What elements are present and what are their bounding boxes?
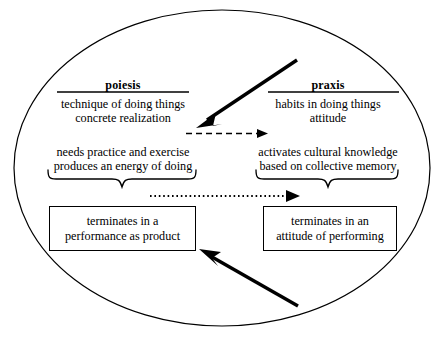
poiesis-block-two: needs practice and exercise produces an …: [18, 145, 228, 174]
praxis-block-one-line2: attitude: [228, 111, 428, 125]
outcome-box-praxis-line2: attitude of performing: [276, 229, 384, 244]
heading-poiesis: poiesis: [18, 78, 228, 92]
outcome-box-praxis: terminates in an attitude of performing: [263, 206, 397, 251]
diagram-canvas: poiesis technique of doing things concre…: [0, 0, 443, 337]
outcome-box-poiesis: terminates in a performance as product: [49, 206, 196, 251]
heading-praxis: praxis: [228, 78, 428, 92]
outcome-box-poiesis-line2: performance as product: [65, 229, 180, 244]
poiesis-block-one-line1: technique of doing things: [18, 97, 228, 111]
thick-arrow-bottom: [199, 249, 298, 306]
praxis-block-one-line1: habits in doing things: [228, 97, 428, 111]
praxis-block-two-line1: activates cultural knowledge: [228, 145, 428, 159]
praxis-block-two: activates cultural knowledge based on co…: [228, 145, 428, 174]
dotted-arrow-lower: [150, 190, 300, 202]
praxis-block-one: habits in doing things attitude: [228, 97, 428, 126]
poiesis-block-two-line1: needs practice and exercise: [18, 145, 228, 159]
outcome-box-poiesis-line1: terminates in a: [87, 214, 159, 229]
poiesis-block-two-line2: produces an energy of doing: [18, 159, 228, 173]
praxis-block-two-line2: based on collective memory: [228, 159, 428, 173]
dashed-arrow-middle: [186, 129, 268, 138]
poiesis-block-one-line2: concrete realization: [18, 111, 228, 125]
poiesis-block-one: technique of doing things concrete reali…: [18, 97, 228, 126]
outcome-box-praxis-line1: terminates in an: [291, 214, 369, 229]
